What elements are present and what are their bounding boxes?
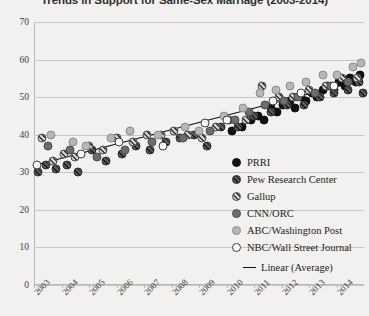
data-point [76, 149, 85, 158]
data-point [329, 81, 338, 90]
legend-line-icon [243, 267, 256, 268]
chart-title: Trends in Support for Same-Sex Marriage … [0, 0, 369, 6]
data-point [178, 134, 187, 143]
data-point [353, 74, 362, 83]
data-point [115, 138, 124, 147]
data-point [206, 126, 215, 135]
data-point [129, 138, 138, 147]
y-axis-label: 70 [20, 17, 30, 27]
y-axis-label: 0 [24, 280, 29, 290]
data-point [49, 157, 58, 166]
data-point [357, 59, 366, 68]
legend-label: ABC/Washington Post [247, 225, 342, 236]
legend-label: PRRI [247, 157, 270, 168]
data-point [259, 115, 268, 124]
data-point [195, 126, 204, 135]
data-point [358, 89, 367, 98]
y-axis-label: 60 [20, 55, 30, 65]
data-point [255, 89, 264, 98]
legend-label: CNN/ORC [247, 208, 294, 219]
legend-item-2[interactable]: Gallup [232, 189, 352, 204]
legend-label: Pew Research Center [247, 174, 337, 185]
legend-marker-icon [232, 158, 241, 167]
data-point [266, 108, 275, 117]
data-point [343, 78, 352, 87]
data-point [318, 70, 327, 79]
data-point [32, 160, 41, 169]
legend-marker-icon [232, 192, 241, 201]
data-point [299, 100, 308, 109]
data-point [120, 145, 129, 154]
data-point [46, 130, 55, 139]
y-axis-label: 30 [20, 167, 30, 177]
legend-marker-icon [232, 209, 241, 218]
data-point [181, 123, 190, 132]
legend-item-0[interactable]: PRRI [232, 155, 352, 170]
legend-label: Gallup [247, 191, 276, 202]
data-point [68, 138, 77, 147]
data-point [272, 85, 281, 94]
chart-legend: PRRIPew Research CenterGallupCNN/ORCABC/… [232, 155, 352, 275]
y-axis-label: 20 [20, 205, 30, 215]
data-point [296, 89, 305, 98]
data-point [203, 141, 212, 150]
y-axis-label: 40 [20, 130, 30, 140]
legend-item-3[interactable]: CNN/ORC [232, 206, 352, 221]
data-point [310, 89, 319, 98]
data-point [285, 81, 294, 90]
data-point [332, 70, 341, 79]
legend-marker-icon [232, 243, 241, 252]
legend-marker-icon [232, 175, 241, 184]
data-point [74, 168, 83, 177]
legend-marker-icon [232, 226, 241, 235]
legend-label: NBC/Wall Street Journal [247, 242, 352, 253]
data-point [222, 115, 231, 124]
legend-label: Linear (Average) [261, 262, 333, 273]
data-point [302, 78, 311, 87]
data-point [239, 104, 248, 113]
chart-container: Trends in Support for Same-Sex Marriage … [0, 0, 369, 316]
data-point [280, 96, 289, 105]
legend-item-trendline[interactable]: Linear (Average) [244, 260, 352, 275]
legend-item-4[interactable]: ABC/Washington Post [232, 223, 352, 238]
legend-item-1[interactable]: Pew Research Center [232, 172, 352, 187]
data-point [200, 119, 209, 128]
data-point [269, 96, 278, 105]
data-point [126, 126, 135, 135]
data-point [93, 153, 102, 162]
data-point [153, 130, 162, 139]
data-point [159, 141, 168, 150]
data-point [170, 126, 179, 135]
data-point [63, 160, 72, 169]
data-point [148, 138, 157, 147]
legend-item-5[interactable]: NBC/Wall Street Journal [232, 240, 352, 255]
y-axis-label: 10 [20, 242, 30, 252]
data-point [230, 115, 239, 124]
data-point [43, 141, 52, 150]
data-point [101, 157, 110, 166]
y-axis-label: 50 [20, 92, 30, 102]
